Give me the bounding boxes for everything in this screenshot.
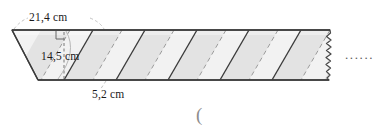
dimension-label-slant-side: 21,4 cm: [29, 11, 67, 23]
geometry-figure: 21,4 cm 14,5 cm 5,2 cm ...... (: [0, 0, 392, 137]
continuation-ellipsis: ......: [345, 47, 374, 63]
dimension-label-base: 5,2 cm: [92, 88, 125, 100]
dimension-label-height: 14,5 cm: [41, 50, 79, 62]
paren-annotation: (: [196, 104, 202, 126]
